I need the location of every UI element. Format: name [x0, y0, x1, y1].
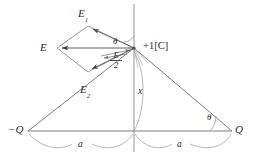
- parallelogram-construction: [57, 26, 134, 72]
- diagram-vector-graphics: [0, 0, 253, 158]
- label-E2-sub: 2: [87, 92, 90, 99]
- label-E-over-2-denominator: 2: [110, 61, 122, 70]
- label-E-over-2: E 2: [110, 51, 122, 70]
- label-test-charge: +1[C]: [143, 41, 168, 52]
- label-theta-top: θ: [113, 37, 117, 46]
- theta-arc-top: [124, 36, 134, 42]
- label-E2-text: E: [80, 83, 87, 95]
- a-dimension-right: [135, 134, 231, 148]
- dipole-triangle: [28, 48, 232, 131]
- label-theta-bottom: θ: [207, 113, 211, 122]
- label-E-over-2-numerator: E: [110, 51, 122, 60]
- charge-points: [132, 46, 135, 49]
- figure-canvas: E1 E2 E +1[C] θ E 2 x −Q Q θ a a: [0, 0, 253, 158]
- label-E1: E1: [78, 8, 88, 22]
- label-x-distance: x: [138, 86, 142, 96]
- label-E2: E2: [80, 84, 90, 98]
- label-E1-text: E: [78, 7, 85, 19]
- label-a-left: a: [78, 140, 83, 150]
- label-charge-negative: −Q: [8, 124, 23, 135]
- label-E-resultant: E: [40, 42, 47, 53]
- label-E1-sub: 1: [85, 16, 88, 23]
- label-a-right: a: [177, 140, 182, 150]
- label-charge-positive: Q: [235, 124, 243, 135]
